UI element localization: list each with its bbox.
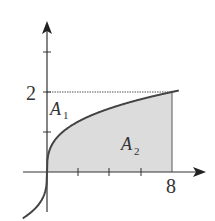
region-a2-shading	[47, 92, 172, 172]
x-tick-label-8: 8	[166, 175, 176, 197]
region-a2-subscript: 2	[134, 145, 140, 157]
region-a1-label: A	[49, 99, 62, 119]
region-a2-label: A	[120, 134, 133, 154]
cube-root-diagram: 2 8 A 1 A 2	[0, 0, 215, 221]
y-tick-label-2: 2	[26, 82, 36, 104]
region-a1-subscript: 1	[63, 109, 69, 121]
